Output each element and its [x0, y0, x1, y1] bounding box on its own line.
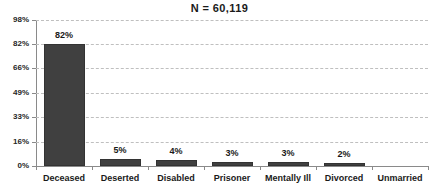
bar-disabled — [156, 160, 197, 166]
x-axis-line — [36, 166, 428, 167]
x-tick-mark — [316, 166, 317, 170]
x-tick-mark — [92, 166, 93, 170]
x-tick-mark — [36, 166, 37, 170]
x-category-label-deceased: Deceased — [36, 173, 92, 183]
x-category-label-unmarried: Unmarried — [372, 173, 428, 183]
y-tick-label: 16% — [0, 137, 29, 146]
bar-value-label: 3% — [260, 148, 316, 158]
x-category-label-deserted: Deserted — [92, 173, 148, 183]
y-tick-label: 0% — [0, 161, 29, 170]
chart-title: N = 60,119 — [0, 2, 439, 14]
x-tick-mark — [148, 166, 149, 170]
bar-value-label: 82% — [36, 30, 92, 40]
bar-value-label: 2% — [316, 149, 372, 159]
y-tick-label: 66% — [0, 63, 29, 72]
x-category-label-mentally-ill: Mentally Ill — [260, 173, 316, 183]
y-tick-label: 33% — [0, 112, 29, 121]
y-tick-label: 49% — [0, 88, 29, 97]
x-tick-mark — [428, 166, 429, 170]
x-tick-mark — [204, 166, 205, 170]
bar-chart: N = 60,119 0%16%33%49%66%82%98% 82%5%4%3… — [0, 0, 439, 196]
y-tick-label: 98% — [0, 15, 29, 24]
bar-value-label: 5% — [92, 145, 148, 155]
x-tick-mark — [260, 166, 261, 170]
bar-value-label: 4% — [148, 146, 204, 156]
bar-prisoner — [212, 162, 253, 166]
bar-deserted — [100, 159, 141, 166]
x-category-label-disabled: Disabled — [148, 173, 204, 183]
bar-mentally-ill — [268, 162, 309, 166]
bar-value-label: 3% — [204, 148, 260, 158]
y-tick-label: 82% — [0, 39, 29, 48]
bar-divorced — [324, 163, 365, 166]
x-category-label-prisoner: Prisoner — [204, 173, 260, 183]
bar-deceased — [44, 44, 85, 166]
x-tick-mark — [372, 166, 373, 170]
x-category-label-divorced: Divorced — [316, 173, 372, 183]
